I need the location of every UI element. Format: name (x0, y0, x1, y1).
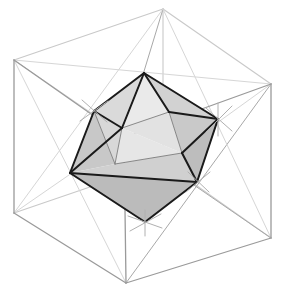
icosahedron-in-cube-figure: Icosahedron inscribed in a cube (0, 0, 284, 301)
icosahedron-faces (70, 73, 218, 222)
cube-edge-back-top-right (163, 9, 271, 84)
cube-edge-bottom-right (126, 238, 271, 283)
cube-edge-bottom-left (14, 213, 126, 283)
figure-root: Icosahedron inscribed in a cube (0, 0, 284, 301)
cube-edge-back-top (14, 9, 163, 60)
